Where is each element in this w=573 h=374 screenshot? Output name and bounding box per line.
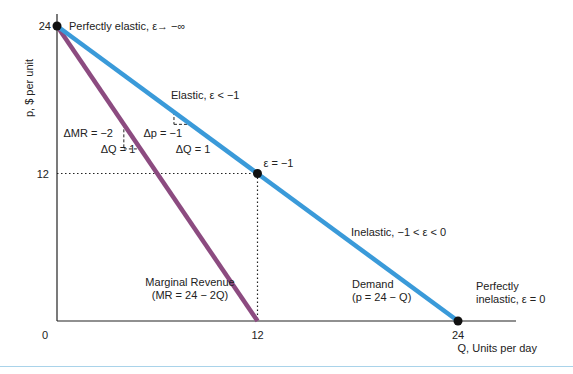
marked-point <box>253 169 262 178</box>
bottom-divider <box>0 366 573 367</box>
elastic-region-label: Elastic, ε < −1 <box>171 89 240 101</box>
delta-p-label: Δp = −1 <box>143 127 182 139</box>
demand-label: Demand <box>352 278 394 290</box>
perfectly-inelastic-label: inelastic, ε = 0 <box>476 293 545 305</box>
marked-point <box>454 317 463 326</box>
mr-label: Marginal Revenue <box>145 276 234 288</box>
y-tick-label: 12 <box>37 168 49 180</box>
x-tick-label: 12 <box>251 329 263 341</box>
delta-mr-label: ΔMR = −2 <box>63 127 113 139</box>
perfectly-elastic-label: Perfectly elastic, ε→ −∞ <box>69 20 185 32</box>
demand-equation-label: (p = 24 − Q) <box>352 291 411 303</box>
x-tick-label: 24 <box>452 329 464 341</box>
chart: 24 12 0 12 24 Q, Units per day p, $ per … <box>0 0 573 374</box>
delta-q-mr-label: ΔQ = 1 <box>101 143 136 155</box>
inelastic-region-label: Inelastic, −1 < ε < 0 <box>351 226 446 238</box>
x-axis-label: Q, Units per day <box>458 342 538 354</box>
y-axis-label: p, $ per unit <box>23 59 35 117</box>
mr-equation-label: (MR = 24 − 2Q) <box>152 289 228 301</box>
delta-q-demand-label: ΔQ = 1 <box>176 143 211 155</box>
perfectly-inelastic-label: Perfectly <box>476 280 519 292</box>
unit-elastic-label: ε = −1 <box>264 157 294 169</box>
y-tick-label: 24 <box>39 20 51 32</box>
x-tick-label: 0 <box>42 329 48 341</box>
marked-point <box>53 22 62 31</box>
